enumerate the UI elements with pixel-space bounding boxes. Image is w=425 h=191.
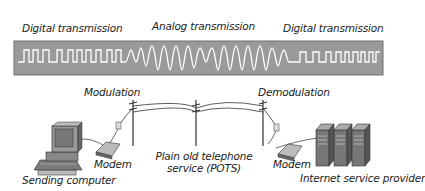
left-modem-label: Modem <box>94 158 132 170</box>
pots-label: Plain old telephone service (POTS) <box>152 150 256 174</box>
isp-label: Internet service provider <box>300 172 425 184</box>
pots-label-line2: service (POTS) <box>152 162 256 174</box>
isp-servers-icon <box>316 124 370 166</box>
telephone-poles <box>129 100 267 146</box>
demodulation-label: Demodulation <box>258 86 330 98</box>
signal-band <box>14 41 383 75</box>
wall-jack-left <box>116 122 121 129</box>
sending-computer-icon <box>34 122 82 175</box>
modulation-label: Modulation <box>84 86 140 98</box>
wall-jack-right <box>274 124 279 131</box>
digital-transmission-right-label: Digital transmission <box>283 22 383 34</box>
telephone-lines <box>120 102 276 126</box>
digital-transmission-left-label: Digital transmission <box>22 22 122 34</box>
left-modem-icon <box>96 142 120 159</box>
right-modem-label: Modem <box>273 158 311 170</box>
sending-computer-label: Sending computer <box>22 174 115 186</box>
pots-label-line1: Plain old telephone <box>152 150 256 162</box>
analog-transmission-label: Analog transmission <box>152 20 255 32</box>
